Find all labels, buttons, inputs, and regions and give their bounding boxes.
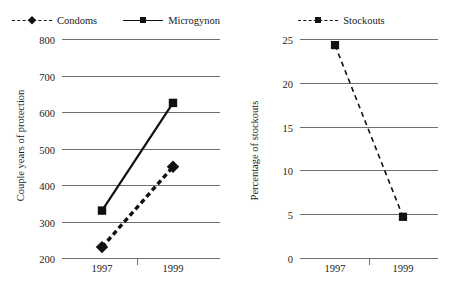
data-point-microgynon-1999 bbox=[169, 99, 177, 107]
data-point-condoms-1997 bbox=[96, 241, 108, 253]
series-stockouts bbox=[331, 41, 407, 221]
x-axis-tick-mark bbox=[369, 258, 370, 265]
square-marker-icon bbox=[140, 17, 146, 23]
data-point-stockouts-1999 bbox=[399, 213, 407, 221]
legend-label-microgynon: Microgynon bbox=[168, 15, 220, 26]
y-axis-title-left: Couple years of protection bbox=[15, 66, 26, 226]
x-axis-tick-mark bbox=[137, 258, 138, 265]
y-tick-label-0: 0 bbox=[288, 254, 293, 265]
y-tick-label-800: 800 bbox=[39, 35, 55, 46]
legend-entry-microgynon[interactable]: Microgynon bbox=[123, 15, 220, 26]
y-tick-label-400: 400 bbox=[39, 181, 55, 192]
legend-key-condoms-dashed-diamond bbox=[12, 15, 52, 26]
data-point-stockouts-1997 bbox=[331, 41, 339, 49]
y-tick-label-15: 15 bbox=[283, 122, 294, 133]
chart-panel-couple-years-of-protection: Condoms Microgynon Couple years of prote… bbox=[0, 0, 232, 289]
series-condoms bbox=[96, 161, 179, 254]
chart-panel-percentage-of-stockouts: Stockouts Percentage of stockouts 25 20 … bbox=[232, 0, 451, 289]
y-tick-label-5: 5 bbox=[288, 210, 293, 221]
y-tick-label-10: 10 bbox=[283, 166, 294, 177]
square-marker-icon bbox=[315, 17, 321, 23]
legend-key-microgynon-solid-square bbox=[123, 15, 163, 26]
diamond-marker-icon bbox=[28, 16, 36, 24]
series-microgynon bbox=[98, 99, 177, 215]
legend-label-stockouts: Stockouts bbox=[343, 15, 384, 26]
y-tick-label-25: 25 bbox=[283, 35, 294, 46]
legend-entry-stockouts[interactable]: Stockouts bbox=[298, 15, 384, 26]
y-tick-label-700: 700 bbox=[39, 71, 55, 82]
series-layer-right bbox=[300, 39, 438, 258]
series-line-microgynon bbox=[102, 103, 173, 211]
legend-right: Stockouts bbox=[232, 11, 451, 29]
plot-area-left: 800 700 600 500 400 300 200 bbox=[62, 39, 220, 258]
plot-area-right: 25 20 15 10 5 0 bbox=[300, 39, 438, 258]
gridline-200-axis: 200 bbox=[62, 258, 220, 259]
x-tick-label-1997: 1997 bbox=[325, 263, 346, 274]
legend-key-stockouts-dashed-square bbox=[298, 15, 338, 26]
figure-two-line-charts: Condoms Microgynon Couple years of prote… bbox=[0, 0, 451, 289]
y-tick-label-200: 200 bbox=[39, 254, 55, 265]
y-tick-label-300: 300 bbox=[39, 217, 55, 228]
legend-entry-condoms[interactable]: Condoms bbox=[12, 15, 97, 26]
y-axis-title-right: Percentage of stockouts bbox=[249, 71, 260, 231]
x-tick-label-1999: 1999 bbox=[163, 263, 184, 274]
series-layer-left bbox=[62, 39, 220, 258]
series-line-condoms bbox=[102, 167, 173, 247]
series-line-stockouts bbox=[335, 45, 403, 217]
data-point-microgynon-1997 bbox=[98, 206, 106, 214]
y-tick-label-600: 600 bbox=[39, 108, 55, 119]
y-tick-label-500: 500 bbox=[39, 144, 55, 155]
legend-left: Condoms Microgynon bbox=[0, 11, 232, 29]
x-tick-label-1999: 1999 bbox=[393, 263, 414, 274]
y-tick-label-20: 20 bbox=[283, 78, 294, 89]
x-tick-label-1997: 1997 bbox=[92, 263, 113, 274]
legend-label-condoms: Condoms bbox=[57, 15, 97, 26]
